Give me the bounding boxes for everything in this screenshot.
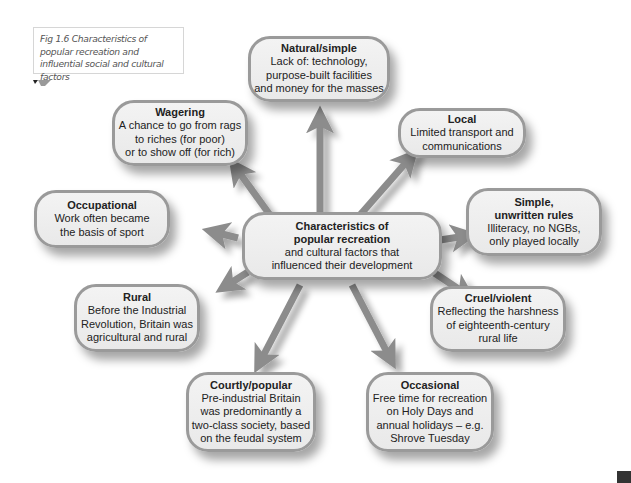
node-cruel-violent: Cruel/violent Reflecting the harshness o… — [430, 286, 566, 352]
node-text: on Holy Days and — [369, 405, 491, 419]
center-title: Characteristics of — [245, 220, 439, 233]
node-occasional: Occasional Free time for recreation on H… — [366, 372, 494, 452]
node-text: two-class society, based — [189, 419, 313, 433]
node-occupational: Occupational Work often became the basis… — [34, 190, 170, 248]
arrow-to-occupational — [214, 232, 238, 238]
node-text: purpose-built facilities — [251, 69, 387, 83]
node-title: Occupational — [37, 199, 167, 212]
node-text: Shrove Tuesday — [369, 432, 491, 446]
node-text: the basis of sport — [37, 226, 167, 240]
node-title: Natural/simple — [251, 42, 387, 55]
node-title: Simple, — [469, 196, 599, 209]
center-text: influenced their development — [245, 259, 439, 273]
arrow-to-courtly — [260, 285, 300, 362]
node-natural-simple: Natural/simple Lack of: technology, purp… — [248, 36, 390, 102]
node-courtly-popular: Courtly/popular Pre-industrial Britain w… — [186, 372, 316, 452]
center-text: and cultural factors that — [245, 246, 439, 260]
arrow-to-occasional — [352, 285, 390, 358]
node-text: on the feudal system — [189, 432, 313, 446]
center-title: popular recreation — [245, 233, 439, 246]
node-text: Free time for recreation — [369, 392, 491, 406]
node-title: Wagering — [115, 106, 245, 119]
node-text: Lack of: technology, — [251, 55, 387, 69]
arrow-to-wagering — [236, 168, 270, 215]
node-text: agricultural and rural — [77, 331, 197, 345]
arrow-to-rural — [226, 272, 248, 286]
node-text: annual holidays – e.g. — [369, 419, 491, 433]
arrow-to-simple — [440, 236, 466, 240]
node-title: Cruel/violent — [433, 292, 563, 305]
node-text: to riches (for poor) — [115, 133, 245, 147]
node-simple-unwritten-rules: Simple, unwritten rules Illiteracy, no N… — [466, 188, 602, 256]
node-wagering: Wagering A chance to go from rags to ric… — [112, 100, 248, 166]
node-text: Illiteracy, no NGBs, — [469, 222, 599, 236]
page-corner-marker — [617, 471, 631, 483]
node-text: rural life — [433, 332, 563, 346]
node-text: A chance to go from rags — [115, 119, 245, 133]
node-text: Work often became — [37, 212, 167, 226]
node-text: Pre-industrial Britain — [189, 392, 313, 406]
node-text: was predominantly a — [189, 405, 313, 419]
node-local: Local Limited transport and communicatio… — [398, 108, 526, 158]
node-title: unwritten rules — [469, 209, 599, 222]
node-text: Limited transport and — [401, 126, 523, 140]
arrow-to-local — [360, 158, 410, 215]
node-text: and money for the masses — [251, 82, 387, 96]
node-text: or to show off (for rich) — [115, 146, 245, 160]
node-rural: Rural Before the Industrial Revolution, … — [74, 284, 200, 352]
node-center: Characteristics of popular recreation an… — [242, 212, 442, 280]
node-text: Reflecting the harshness — [433, 305, 563, 319]
node-title: Local — [401, 113, 523, 126]
node-title: Courtly/popular — [189, 379, 313, 392]
node-title: Occasional — [369, 379, 491, 392]
node-text: Before the Industrial — [77, 304, 197, 318]
node-text: of eighteenth-century — [433, 319, 563, 333]
node-text: only played locally — [469, 235, 599, 249]
node-text: communications — [401, 140, 523, 154]
node-text: Revolution, Britain was — [77, 318, 197, 332]
node-title: Rural — [77, 291, 197, 304]
